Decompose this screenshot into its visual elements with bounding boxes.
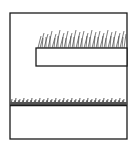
short-grass-icon xyxy=(10,98,127,105)
raised-ledge xyxy=(36,48,127,66)
outer-frame xyxy=(10,13,127,139)
tall-grass-icon xyxy=(38,30,126,48)
diagram-canvas xyxy=(0,0,132,143)
